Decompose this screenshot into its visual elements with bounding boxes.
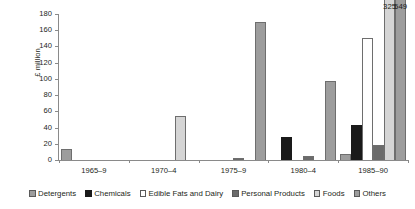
legend-item-label: Personal Products [241, 189, 305, 198]
y-axis-tick-label: 20 [44, 140, 52, 148]
y-axis-tick-label: 80 [44, 91, 52, 99]
bar [233, 158, 244, 160]
bar [395, 0, 406, 160]
legend-item[interactable]: Others [354, 189, 386, 198]
y-axis-tick-label: 160 [39, 26, 52, 34]
y-axis-tick-label: 40 [44, 124, 52, 132]
plot-area: 1965–91970–41975–91980–41985–90325549 [59, 14, 408, 160]
legend-item[interactable]: Edible Fats and Dairy [140, 189, 224, 198]
legend-item[interactable]: Chemicals [85, 189, 130, 198]
bar [255, 22, 266, 160]
y-axis-tick-label: 0 [48, 156, 52, 164]
bar-value-annotation: 549 [394, 2, 407, 11]
bar [325, 81, 336, 160]
bar-group-bars [129, 14, 199, 160]
legend-swatch-icon [85, 190, 92, 197]
bar [61, 149, 72, 160]
bar-group: 1985–90 [338, 14, 408, 160]
x-axis-tick-mark [199, 160, 200, 163]
legend-item-label: Edible Fats and Dairy [149, 189, 224, 198]
bar-group: 1975–9 [199, 14, 269, 160]
bar-group: 1970–4 [129, 14, 199, 160]
x-axis-group-label: 1965–9 [81, 166, 106, 175]
y-axis: 020406080100120140160180 [16, 14, 58, 160]
x-axis-group-label: 1985–90 [358, 166, 388, 175]
y-axis-tick-label: 100 [39, 75, 52, 83]
chart-legend: DetergentsChemicalsEdible Fats and Dairy… [0, 189, 415, 198]
x-axis-tick-mark [408, 160, 409, 163]
x-axis-tick-mark [338, 160, 339, 163]
legend-item-label: Foods [323, 189, 345, 198]
y-axis-tick-label: 60 [44, 108, 52, 116]
bar-group: 1980–4 [268, 14, 338, 160]
bar-group: 1965–9 [59, 14, 129, 160]
legend-swatch-icon [232, 190, 239, 197]
x-axis-tick-mark [129, 160, 130, 163]
legend-swatch-icon [314, 190, 321, 197]
bar-group-bars [268, 14, 338, 160]
legend-item-label: Chemicals [94, 189, 130, 198]
bar [303, 156, 314, 160]
legend-item[interactable]: Foods [314, 189, 345, 198]
bar [340, 154, 351, 160]
bar [175, 116, 186, 160]
y-axis-tick-label: 120 [39, 59, 52, 67]
bar [351, 125, 362, 160]
y-axis-tick-label: 140 [39, 43, 52, 51]
legend-swatch-icon [354, 190, 361, 197]
bar [384, 0, 395, 160]
x-axis-line [58, 160, 408, 161]
bar-chart: £ million 020406080100120140160180 1965–… [0, 0, 415, 209]
bar-group-bars [59, 14, 129, 160]
y-axis-tick-label: 180 [39, 10, 52, 18]
legend-item[interactable]: Personal Products [232, 189, 305, 198]
legend-swatch-icon [140, 190, 147, 197]
bar [373, 145, 384, 160]
x-axis-group-label: 1980–4 [291, 166, 316, 175]
legend-swatch-icon [29, 190, 36, 197]
legend-item-label: Others [363, 189, 386, 198]
bar [281, 137, 292, 160]
bar [362, 38, 373, 160]
x-axis-group-label: 1970–4 [151, 166, 176, 175]
bar-group-bars [199, 14, 269, 160]
x-axis-tick-mark [268, 160, 269, 163]
legend-item-label: Detergents [38, 189, 76, 198]
bar-group-bars [338, 14, 408, 160]
x-axis-group-label: 1975–9 [221, 166, 246, 175]
x-axis-tick-mark [59, 160, 60, 163]
legend-item[interactable]: Detergents [29, 189, 76, 198]
